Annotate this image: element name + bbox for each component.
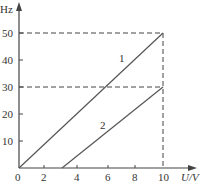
x-axis-label: U/V [181, 171, 200, 183]
x-tick-label-4: 4 [74, 171, 80, 183]
y-axis-label: Hz [0, 3, 13, 15]
chart: Hz 50 40 30 20 10 0 2 4 6 8 10 U/V 1 2 [0, 0, 202, 185]
series-1-line [19, 33, 163, 168]
y-tick-label-50: 50 [2, 27, 14, 39]
series-2-label: 2 [100, 119, 106, 131]
series-2-line [62, 87, 163, 168]
y-tick-label-30: 30 [2, 81, 14, 93]
x-tick-label-8: 8 [132, 171, 138, 183]
series-1-label: 1 [119, 52, 125, 64]
x-tick-label-0: 0 [15, 171, 21, 183]
y-tick-label-40: 40 [2, 54, 14, 66]
x-tick-label-2: 2 [41, 171, 47, 183]
y-tick-label-20: 20 [2, 108, 14, 120]
y-axis-arrow-icon [16, 2, 22, 11]
x-tick-label-10: 10 [158, 171, 170, 183]
y-tick-label-10: 10 [2, 135, 14, 147]
x-tick-label-6: 6 [105, 171, 111, 183]
